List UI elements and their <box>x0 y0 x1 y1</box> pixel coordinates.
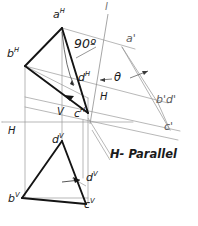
tl-arrow-top <box>64 95 74 101</box>
label-axis-h-left: H <box>8 126 16 136</box>
label-h-parallel: H- Parallel <box>110 149 177 161</box>
label-axis-h-right: H <box>100 92 108 102</box>
label-c-h: cH <box>74 108 85 119</box>
aux-edge-a-bd <box>122 47 158 103</box>
leader-h-parallel-upper <box>88 118 112 157</box>
edge-av-bv <box>22 141 62 198</box>
label-angle-90: 90º <box>74 38 96 51</box>
descriptive-geometry-figure: aH bH cH dH dV bV cV dV a' b'd' c' 90º θ… <box>0 0 198 226</box>
front-view-triangle <box>22 141 86 204</box>
label-c-v: cV <box>84 199 95 210</box>
label-theta: θ <box>114 72 121 84</box>
theta-arrowhead-left <box>100 78 105 82</box>
label-a-h: aH <box>53 9 65 20</box>
label-bd-prime: b'd' <box>156 94 176 105</box>
parallel-lower-edge <box>25 107 178 140</box>
arrowhead-top-view <box>64 95 74 101</box>
line-l <box>90 14 108 124</box>
leader-h-parallel-lower <box>92 130 110 160</box>
label-a-v: dV <box>52 134 64 145</box>
edge-bv-cv <box>22 198 86 204</box>
label-b-v: bV <box>8 193 20 204</box>
line-l-stroke <box>90 14 108 124</box>
label-d-v: dV <box>86 172 98 183</box>
label-b-h: bH <box>7 48 19 59</box>
parallel-through-a <box>62 28 135 49</box>
label-a-prime: a' <box>126 33 136 44</box>
edge-ah-bh <box>25 28 62 66</box>
edge-av-cv <box>62 141 86 204</box>
label-axis-v: V <box>57 107 64 117</box>
figure-linework <box>0 0 198 226</box>
label-d-h: dH <box>78 72 90 83</box>
auxiliary-triangle <box>122 47 170 130</box>
aux-edge-a-c <box>122 47 170 130</box>
label-c-prime: c' <box>164 121 173 132</box>
label-line-l: l <box>105 2 108 12</box>
